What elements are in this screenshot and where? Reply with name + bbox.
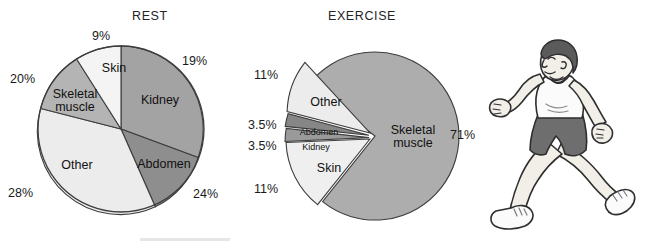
exercise-label-abdomen: Abdomen <box>293 127 345 137</box>
exercise-label-skin: Skin <box>308 162 350 175</box>
runner-front-shoe <box>491 206 533 229</box>
running-person-illustration <box>470 38 658 236</box>
exercise-pct-other: 11% <box>254 68 278 82</box>
runner-front-hand <box>592 123 613 143</box>
runner-back-fist <box>490 99 511 117</box>
exercise-label-other: Other <box>301 96 351 109</box>
exercise-pct-kidney: 3.5% <box>248 139 277 153</box>
exercise-pct-abdomen: 3.5% <box>248 118 277 132</box>
cardiac-output-distribution-figure: REST 9% 19% 24% 28% 20% Skin Kidney Abdo… <box>0 0 663 244</box>
footer-divider <box>140 238 230 241</box>
exercise-label-skeletal-muscle-line2: muscle <box>393 136 433 150</box>
exercise-label-kidney: Kidney <box>294 142 338 152</box>
exercise-label-skeletal-muscle: Skeletal muscle <box>376 124 450 150</box>
exercise-label-skeletal-muscle-line1: Skeletal <box>391 123 435 137</box>
exercise-pct-skin: 11% <box>254 182 278 196</box>
